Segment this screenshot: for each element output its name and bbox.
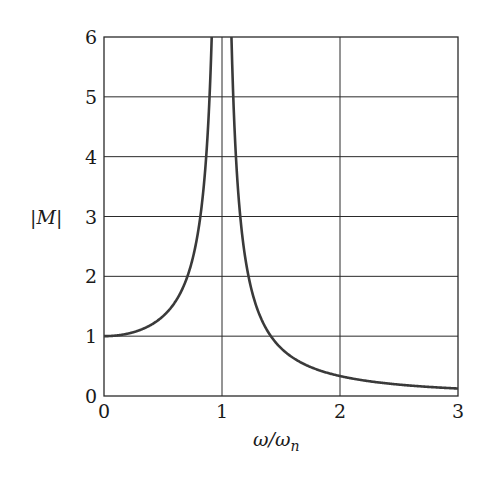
frequency-response-chart: 0123456 0123 |M| ω/ωn [0,0,482,477]
y-tick-label: 5 [85,86,97,108]
x-tick-label: 2 [334,400,346,422]
grid-lines [104,37,458,396]
x-tick-label: 1 [216,400,228,422]
x-tick-label: 0 [98,400,110,422]
y-tick-labels: 0123456 [85,26,97,407]
x-tick-labels: 0123 [98,400,464,422]
y-axis-label: |M| [30,206,62,229]
y-tick-label: 6 [85,26,97,48]
x-axis-label-main: ω/ω [253,428,290,450]
y-tick-label: 1 [85,325,97,347]
x-axis-label: ω/ωn [253,428,299,454]
y-tick-label: 0 [85,385,97,407]
y-tick-label: 4 [85,146,97,168]
curve-below-resonance [104,37,212,336]
x-tick-label: 3 [452,400,464,422]
y-tick-label: 2 [85,265,97,287]
y-tick-label: 3 [85,206,97,228]
x-axis-label-subscript: n [290,438,299,454]
